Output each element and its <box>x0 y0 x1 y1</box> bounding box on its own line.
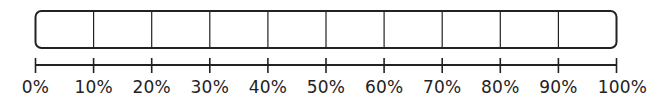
axis-label: 60% <box>365 77 403 97</box>
axis-label: 10% <box>74 77 112 97</box>
axis-label: 70% <box>423 77 461 97</box>
axis-label: 90% <box>539 77 577 97</box>
axis-label: 40% <box>249 77 287 97</box>
axis-label: 100% <box>598 77 647 97</box>
axis-label: 0% <box>22 77 49 97</box>
axis-label: 20% <box>132 77 170 97</box>
axis-label: 50% <box>307 77 345 97</box>
axis-label: 30% <box>191 77 229 97</box>
axis-label: 80% <box>481 77 519 97</box>
